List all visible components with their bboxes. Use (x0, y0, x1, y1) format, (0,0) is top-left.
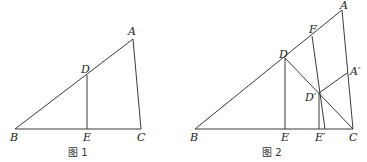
label-D: D (278, 48, 288, 61)
figure-2: A B C D E F D′ A′ E′ 图 2 (189, 0, 361, 158)
label-E: E (82, 131, 91, 144)
label-C: C (349, 131, 358, 144)
segment-DpAp (319, 73, 347, 93)
label-B: B (189, 131, 198, 144)
label-D-prime: D′ (304, 91, 317, 104)
segment-AB (15, 39, 133, 129)
segment-AB (195, 10, 342, 129)
caption-figure-1: 图 1 (68, 147, 88, 158)
caption-figure-2: 图 2 (262, 147, 282, 158)
label-D: D (80, 63, 90, 76)
label-C: C (137, 131, 146, 144)
label-B: B (9, 131, 18, 144)
label-A: A (339, 0, 348, 12)
geometry-diagram: A B C D E 图 1 A B C D E F D′ A′ E′ 图 2 (0, 0, 367, 162)
segment-CA (133, 39, 141, 129)
label-A: A (127, 25, 136, 38)
label-E: E (280, 131, 289, 144)
label-A-prime: A′ (349, 65, 361, 78)
label-F: F (308, 23, 317, 36)
label-E-prime: E′ (314, 131, 326, 144)
figure-1: A B C D E 图 1 (9, 25, 146, 158)
